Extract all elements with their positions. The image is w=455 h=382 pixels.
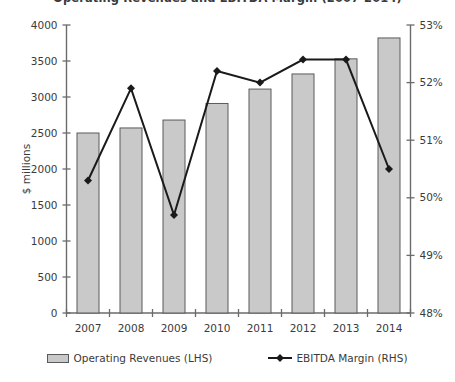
- right-tick-label: 48%: [420, 308, 443, 319]
- left-tick-label: 1500: [0, 200, 58, 211]
- chart-legend: Operating Revenues (LHS) EBITDA Margin (…: [0, 352, 455, 364]
- x-tick-label: 2012: [282, 323, 325, 334]
- x-tick-label: 2008: [110, 323, 153, 334]
- right-tick-label: 52%: [420, 77, 443, 88]
- bar-series: [77, 38, 400, 313]
- bar: [292, 74, 314, 313]
- legend-item-ebitda-margin: EBITDA Margin (RHS): [268, 352, 407, 364]
- legend-item-operating-revenues: Operating Revenues (LHS): [47, 352, 212, 364]
- x-tick-label: 2014: [368, 323, 411, 334]
- bar: [249, 89, 271, 313]
- legend-label-ebitda-margin: EBITDA Margin (RHS): [296, 352, 407, 364]
- x-tick-label: 2011: [239, 323, 282, 334]
- data-point-marker: [256, 79, 264, 87]
- left-tick-label: 3000: [0, 92, 58, 103]
- left-tick-label: 500: [0, 272, 58, 283]
- left-tick-label: 3500: [0, 56, 58, 67]
- data-point-marker: [299, 56, 307, 64]
- x-tick-label: 2013: [325, 323, 368, 334]
- chart-svg: [0, 0, 455, 345]
- right-tick-label: 53%: [420, 20, 443, 31]
- left-tick-label: 0: [0, 308, 58, 319]
- chart-container: Operating Revenues and EBITDA Margin (20…: [0, 0, 455, 382]
- bar-swatch-icon: [47, 354, 69, 363]
- x-tick-label: 2007: [67, 323, 110, 334]
- right-tick-label: 51%: [420, 135, 443, 146]
- bar: [120, 128, 142, 313]
- bar: [77, 133, 99, 313]
- x-tick-label: 2009: [153, 323, 196, 334]
- data-point-marker: [127, 84, 135, 92]
- bar: [206, 103, 228, 313]
- right-tick-label: 49%: [420, 250, 443, 261]
- line-diamond-swatch-icon: [268, 353, 292, 363]
- plot-area: $ millions 05001000150020002500300035004…: [0, 0, 455, 345]
- bar: [335, 59, 357, 313]
- legend-label-operating-revenues: Operating Revenues (LHS): [73, 352, 212, 364]
- left-tick-label: 4000: [0, 20, 58, 31]
- left-tick-label: 2000: [0, 164, 58, 175]
- x-tick-label: 2010: [196, 323, 239, 334]
- bar: [378, 38, 400, 313]
- left-tick-label: 2500: [0, 128, 58, 139]
- right-tick-label: 50%: [420, 192, 443, 203]
- data-point-marker: [213, 67, 221, 75]
- left-tick-label: 1000: [0, 236, 58, 247]
